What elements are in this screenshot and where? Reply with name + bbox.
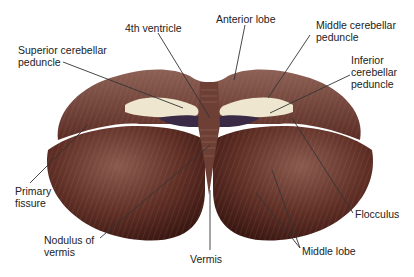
label-middle-lobe: Middle lobe bbox=[302, 245, 356, 257]
label-superior-cerebellar-peduncle: Superior cerebellar peduncle bbox=[18, 44, 107, 68]
label-middle-cerebellar-peduncle: Middle cerebellar peduncle bbox=[316, 19, 396, 43]
label-inferior-cerebellar-peduncle: Inferior cerebellar peduncle bbox=[351, 54, 397, 90]
middle-lobe-left bbox=[47, 126, 205, 240]
label-vermis: Vermis bbox=[190, 253, 222, 265]
label-flocculus: Flocculus bbox=[355, 208, 399, 220]
label-nodulus-of-vermis: Nodulus of vermis bbox=[44, 234, 94, 258]
middle-lobe-right bbox=[213, 126, 373, 240]
label-anterior-lobe: Anterior lobe bbox=[216, 13, 276, 25]
label-primary-fissure: Primary fissure bbox=[15, 185, 51, 209]
label-4th-ventricle: 4th ventricle bbox=[125, 22, 182, 34]
